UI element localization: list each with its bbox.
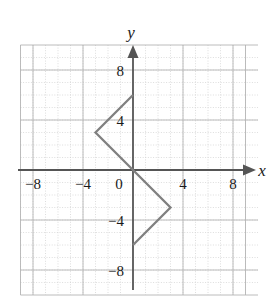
y-tick-labels: 8 4 −4 −8 (108, 63, 124, 279)
x-tick-label-0: 0 (115, 176, 123, 192)
y-tick-label-4: 4 (117, 113, 125, 129)
x-axis-arrow-icon (243, 165, 256, 176)
coordinate-plane-figure: −8 −4 0 4 8 8 4 −4 −8 x y (0, 0, 277, 305)
x-axis-label: x (257, 161, 266, 180)
x-tick-label--8: −8 (25, 176, 41, 192)
y-tick-label--8: −8 (108, 263, 124, 279)
y-axis-arrow-icon (128, 45, 139, 58)
y-tick-label--4: −4 (108, 213, 124, 229)
x-tick-label-4: 4 (179, 176, 187, 192)
y-tick-label-8: 8 (117, 63, 125, 79)
graph-canvas: −8 −4 0 4 8 8 4 −4 −8 x y (0, 0, 277, 305)
x-tick-labels: −8 −4 0 4 8 (25, 176, 237, 192)
x-tick-label-8: 8 (229, 176, 237, 192)
y-axis-label: y (125, 23, 135, 42)
x-tick-label--4: −4 (75, 176, 91, 192)
